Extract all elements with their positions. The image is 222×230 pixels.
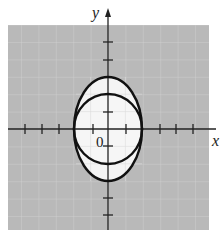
y-axis-arrow-icon [105, 8, 111, 17]
x-axis-label: x [211, 132, 219, 149]
coordinate-graph: y x 0 [0, 0, 222, 230]
y-axis-label: y [90, 4, 100, 22]
origin-label: 0 [96, 134, 104, 150]
